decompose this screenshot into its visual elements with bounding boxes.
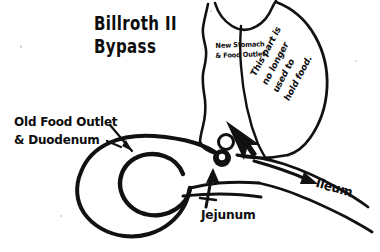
anastomosis-lower-circle-inner — [219, 154, 225, 160]
jejunum-arrow-crossbar — [200, 198, 216, 200]
label-old-food-outlet: Old Food Outlet & Duodenum — [14, 113, 117, 149]
duodenum-inner-loop — [120, 154, 190, 215]
scan-speck — [210, 10, 212, 12]
jejunum-arrowhead — [206, 168, 219, 183]
scan-speck — [60, 215, 62, 217]
gastric-fundus-outline — [215, 1, 276, 30]
label-jejunum: Jejunum — [201, 208, 256, 223]
scan-speck — [355, 60, 357, 62]
anastomosis-pointer-arrow — [226, 121, 260, 160]
anastomosis-upper-circle — [219, 135, 234, 150]
jejunum-limb-upper — [190, 182, 259, 188]
diagram-canvas: Billroth II Bypass Old Food Outlet & Duo… — [0, 0, 380, 252]
esophagus-line — [200, 4, 208, 142]
jejunum-limb-lower — [183, 194, 261, 197]
scan-speck — [20, 45, 22, 48]
page-title: Billroth II Bypass — [94, 12, 177, 58]
